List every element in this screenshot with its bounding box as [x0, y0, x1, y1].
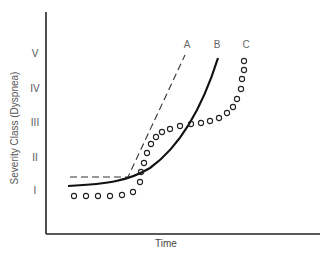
curve-c-circles — [71, 58, 246, 198]
tick-label-i: I — [34, 185, 37, 196]
tick-label-iv: IV — [30, 83, 40, 94]
curve-b-solid — [68, 58, 218, 186]
tick-label-ii: II — [32, 152, 38, 163]
curve-a-dashed — [70, 55, 185, 177]
x-axis-label: Time — [155, 238, 177, 249]
y-axis-label: Severity Class (Dyspnea) — [9, 72, 20, 185]
curve-b-label: B — [214, 39, 221, 50]
curve-c-label: C — [242, 39, 249, 50]
curve-a-label: A — [184, 39, 191, 50]
tick-label-iii: III — [31, 117, 39, 128]
tick-label-v: V — [32, 48, 39, 59]
dyspnea-severity-chart: Severity Class (Dyspnea) V IV III II I T… — [0, 0, 332, 256]
